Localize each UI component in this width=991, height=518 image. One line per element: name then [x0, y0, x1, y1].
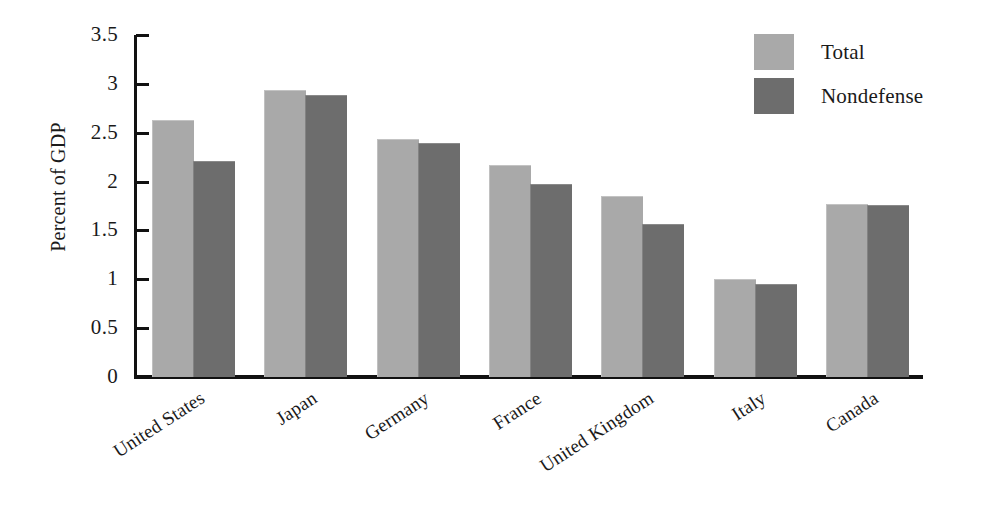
- bar-chart-figure: Percent of GDP 00.511.522.533.5 United S…: [0, 0, 991, 518]
- legend-swatch-nondefense: [754, 78, 794, 114]
- x-label-japan: Japan: [273, 388, 320, 428]
- y-tick-mark: [136, 83, 149, 86]
- legend-swatch-total: [754, 34, 794, 70]
- x-label-canada: Canada: [822, 388, 881, 436]
- legend-item-total: Total: [754, 30, 984, 74]
- legend-label-total: Total: [821, 42, 865, 63]
- x-label-france: France: [490, 388, 545, 433]
- y-tick-mark: [136, 229, 149, 232]
- y-tick-mark: [136, 327, 149, 330]
- legend-item-nondefense: Nondefense: [754, 74, 984, 118]
- x-label-united-states: United States: [110, 388, 208, 461]
- x-label-germany: Germany: [361, 388, 432, 443]
- chart-legend: TotalNondefense: [754, 30, 984, 118]
- x-label-italy: Italy: [728, 388, 768, 423]
- y-tick-mark: [136, 376, 149, 379]
- y-tick-mark: [136, 278, 149, 281]
- y-tick-mark: [136, 132, 149, 135]
- x-label-united-kingdom: United Kingdom: [536, 388, 656, 475]
- y-tick-mark: [136, 34, 149, 37]
- legend-label-nondefense: Nondefense: [821, 86, 923, 107]
- y-tick-mark: [136, 181, 149, 184]
